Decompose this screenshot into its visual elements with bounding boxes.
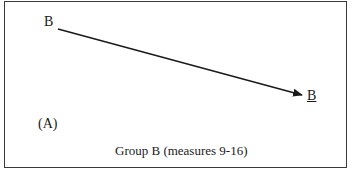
diagram-caption: Group B (measures 9-16) xyxy=(115,144,248,157)
panel-tag: (A) xyxy=(38,117,57,131)
end-label: B xyxy=(307,89,316,103)
start-label: B xyxy=(44,15,53,29)
